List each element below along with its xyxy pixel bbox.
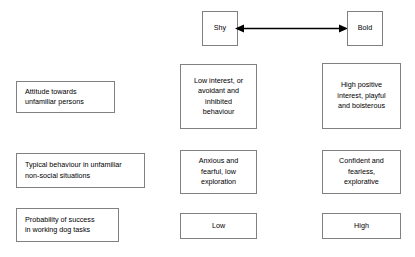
row-shy-box-1: Low interest, or avoidant and inhibited … <box>180 64 257 129</box>
row-shy-text-2: Anxious and fearful, low exploration <box>181 156 256 187</box>
row-label-box-2: Typical behaviour in unfamiliar non-soci… <box>16 153 145 188</box>
row-bold-box-1: High positive interest, playful and bois… <box>322 63 401 129</box>
row-label-text-2: Typical behaviour in unfamiliar non-soci… <box>17 160 144 181</box>
shy-bold-continuum-diagram: Shy Bold Attitude towards unfamiliar per… <box>0 0 415 257</box>
row-bold-box-2: Confident and fearless, explorative <box>322 150 401 194</box>
row-bold-box-3: High <box>322 213 401 239</box>
pole-label-shy: Shy <box>203 23 237 33</box>
double-headed-arrow-icon <box>234 19 349 38</box>
row-label-box-3: Probability of success in working dog ta… <box>16 208 119 242</box>
row-shy-box-3: Low <box>180 213 257 239</box>
row-shy-text-1: Low interest, or avoidant and inhibited … <box>181 76 256 118</box>
pole-box-bold: Bold <box>347 11 383 46</box>
pole-label-bold: Bold <box>348 23 382 33</box>
row-shy-box-2: Anxious and fearful, low exploration <box>180 150 257 194</box>
row-label-text-1: Attitude towards unfamiliar persons <box>17 87 114 108</box>
row-bold-text-2: Confident and fearless, explorative <box>323 156 400 187</box>
row-label-box-1: Attitude towards unfamiliar persons <box>16 81 115 113</box>
row-bold-text-3: High <box>323 221 400 231</box>
pole-box-shy: Shy <box>202 11 238 46</box>
row-label-text-3: Probability of success in working dog ta… <box>17 215 118 236</box>
row-bold-text-1: High positive interest, playful and bois… <box>323 80 400 111</box>
row-shy-text-3: Low <box>181 221 256 231</box>
